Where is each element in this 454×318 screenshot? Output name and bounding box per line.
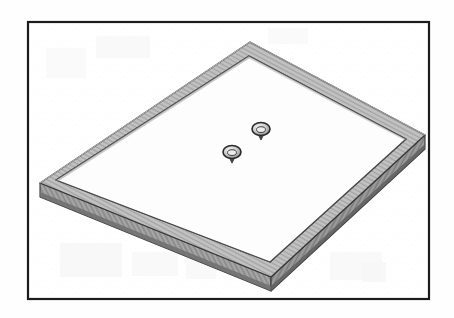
figure-container: Isometric line drawing of a rectangular … — [0, 0, 454, 318]
grommet-upper-bore — [257, 127, 266, 133]
technical-illustration — [0, 0, 454, 318]
grommet-lower-bore — [228, 150, 237, 156]
